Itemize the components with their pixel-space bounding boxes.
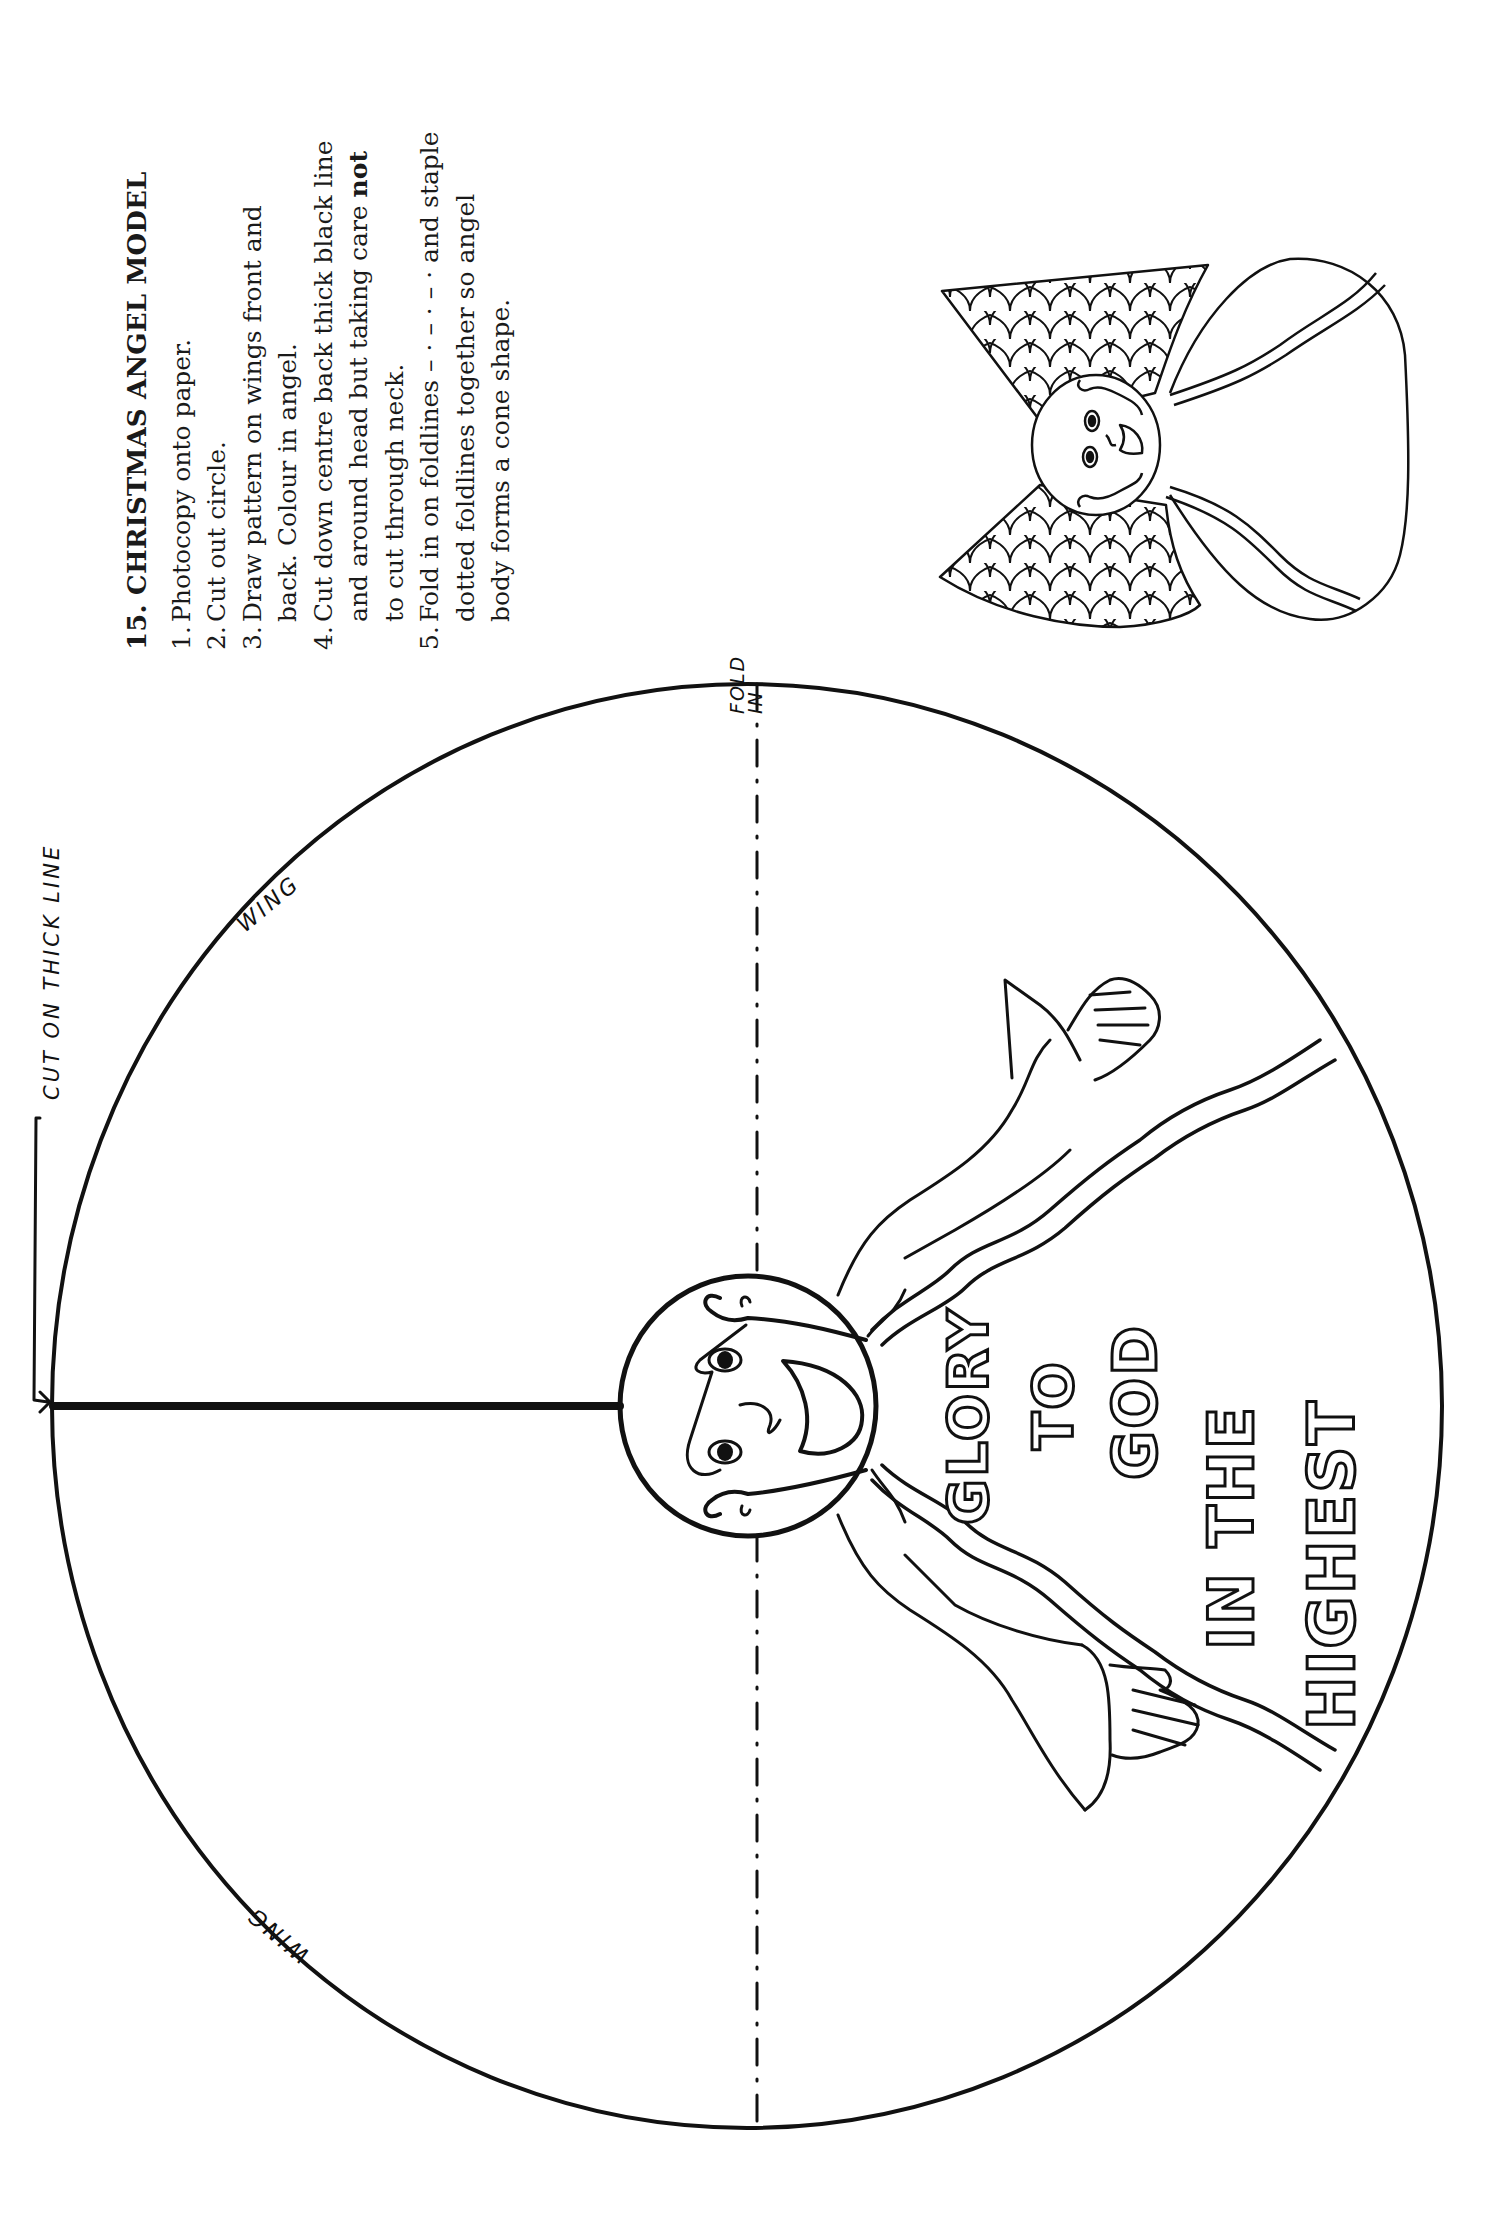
cut-arrow-icon bbox=[34, 1118, 50, 1412]
banner-line-highest: HIGHEST bbox=[1295, 1399, 1369, 1730]
instructions-title: 15. CHRISTMAS ANGEL MODEL bbox=[120, 130, 156, 650]
robe-band-upper bbox=[872, 1040, 1320, 1330]
instruction-step: 5. Fold in on foldlines – · – · – · and … bbox=[412, 130, 519, 650]
banner-line-glory: GLORY bbox=[935, 1307, 1000, 1525]
sleeve-lower bbox=[838, 1515, 1085, 1810]
instruction-step: 1. Photocopy onto paper. bbox=[164, 130, 200, 650]
banner-line-to: TO bbox=[1020, 1360, 1085, 1450]
instruction-step: 3. Draw pattern on wings front and back.… bbox=[235, 130, 306, 650]
fold-in-label: FOLD IN bbox=[728, 670, 764, 714]
angel-head bbox=[620, 1276, 876, 1536]
instruction-step: 4. Cut down centre back thick black line… bbox=[306, 130, 413, 650]
instructions-block: 15. CHRISTMAS ANGEL MODEL 1. Photocopy o… bbox=[120, 130, 519, 650]
finished-angel-illustration bbox=[930, 255, 1410, 665]
worksheet-page: 15. CHRISTMAS ANGEL MODEL 1. Photocopy o… bbox=[0, 0, 1509, 2232]
instruction-step: 2. Cut out circle. bbox=[199, 130, 235, 650]
instructions-steps: 1. Photocopy onto paper. 2. Cut out circ… bbox=[164, 130, 519, 650]
banner-line-in-the: IN THE bbox=[1195, 1405, 1268, 1650]
preview-body bbox=[1170, 259, 1408, 620]
emphasis-not: not bbox=[344, 151, 373, 197]
cut-on-thick-line-label: CUT ON THICK LINE bbox=[40, 844, 64, 1100]
banner-line-god: GOD bbox=[1100, 1324, 1170, 1480]
